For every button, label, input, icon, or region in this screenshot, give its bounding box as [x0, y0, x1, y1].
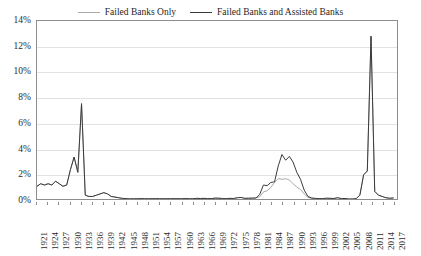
x-axis-tick [215, 202, 216, 205]
x-axis-tick-label: 1960 [186, 232, 195, 250]
x-axis-tick-label: 1924 [51, 232, 60, 250]
x-axis-tick [394, 202, 395, 205]
x-axis-tick-label: 1957 [174, 232, 183, 250]
x-axis-tick [36, 202, 37, 205]
x-axis-tick-label: 2002 [342, 232, 351, 250]
x-axis-tick [294, 202, 295, 205]
x-axis-tick-label: 1945 [130, 232, 139, 250]
x-axis-tick [103, 202, 104, 205]
plot-area [36, 20, 398, 200]
x-axis-tick [327, 202, 328, 205]
x-axis-tick-label: 1921 [40, 232, 49, 250]
x-axis-tick-label: 1942 [118, 232, 127, 250]
x-axis-tick [260, 202, 261, 205]
x-axis-tick [137, 202, 138, 205]
x-axis-tick-label: 1978 [253, 232, 262, 250]
x-axis-tick-label: 1930 [74, 232, 83, 250]
x-axis-tick [193, 202, 194, 205]
x-axis-tick-label: 1981 [264, 232, 273, 250]
chart-legend: Failed Banks Only Failed Banks and Assis… [0, 4, 421, 20]
data-series-line [37, 36, 393, 199]
x-axis-tick-label: 1927 [62, 232, 71, 250]
x-axis-tick-label: 1966 [208, 232, 217, 250]
y-axis-tick-label: 6% [0, 118, 31, 128]
x-axis-tick [92, 202, 93, 205]
y-axis: 0%2%4%6%8%10%12%14% [0, 0, 36, 220]
legend-swatch-icon [78, 12, 100, 13]
x-axis-tick [372, 202, 373, 205]
y-axis-tick-label: 4% [0, 144, 31, 154]
y-axis-tick-label: 8% [0, 92, 31, 102]
x-axis-tick-label: 1996 [320, 232, 329, 250]
legend-item-failed-and-assisted-banks: Failed Banks and Assisted Banks [190, 7, 343, 18]
x-axis-tick [338, 202, 339, 205]
x-axis-tick-label: 2008 [365, 232, 374, 250]
x-axis-tick [204, 202, 205, 205]
x-axis-tick-label: 1948 [141, 232, 150, 250]
series-lines [37, 21, 397, 199]
y-axis-tick-label: 14% [0, 15, 31, 25]
x-axis-tick [305, 202, 306, 205]
x-axis-tick [114, 202, 115, 205]
x-axis-tick [316, 202, 317, 205]
x-axis-tick-label: 1993 [309, 232, 318, 250]
x-axis-tick [126, 202, 127, 205]
x-axis-tick-label: 1954 [163, 232, 172, 250]
x-axis-tick-label: 1984 [275, 232, 284, 250]
x-axis-tick [349, 202, 350, 205]
x-axis-tick-label: 1963 [197, 232, 206, 250]
y-axis-tick-label: 2% [0, 169, 31, 179]
x-axis-tick [182, 202, 183, 205]
x-axis-tick [271, 202, 272, 205]
legend-swatch-icon [190, 12, 212, 13]
legend-item-failed-banks-only: Failed Banks Only [78, 7, 176, 18]
x-axis-tick-label: 2014 [387, 232, 396, 250]
x-axis-tick [282, 202, 283, 205]
x-axis-tick-label: 1933 [85, 232, 94, 250]
legend-label: Failed Banks Only [105, 7, 176, 18]
y-axis-tick-label: 0% [0, 195, 31, 205]
x-axis-tick-label: 1987 [286, 232, 295, 250]
x-axis-tick-label: 1936 [96, 232, 105, 250]
x-axis-tick [70, 202, 71, 205]
data-series-line [37, 36, 393, 199]
legend-label: Failed Banks and Assisted Banks [217, 7, 343, 18]
x-axis-tick-label: 2011 [376, 232, 385, 250]
x-axis-tick [170, 202, 171, 205]
x-axis-tick-label: 1939 [107, 232, 116, 250]
x-axis-tick [383, 202, 384, 205]
x-axis-tick [238, 202, 239, 205]
x-axis-tick-label: 2017 [398, 232, 407, 250]
x-axis-tick [81, 202, 82, 205]
x-axis-tick [148, 202, 149, 205]
x-axis-tick-label: 1951 [152, 232, 161, 250]
x-axis-tick [226, 202, 227, 205]
x-axis: 1921192419271930193319361939194219451948… [36, 202, 398, 256]
y-axis-tick-label: 12% [0, 41, 31, 51]
x-axis-tick [159, 202, 160, 205]
x-axis-tick-label: 1999 [331, 232, 340, 250]
x-axis-tick-label: 2005 [353, 232, 362, 250]
x-axis-tick-label: 1990 [298, 232, 307, 250]
x-axis-tick [361, 202, 362, 205]
x-axis-tick-label: 1972 [230, 232, 239, 250]
y-axis-tick-label: 10% [0, 66, 31, 76]
x-axis-tick [58, 202, 59, 205]
x-axis-tick [249, 202, 250, 205]
chart-container: Failed Banks Only Failed Banks and Assis… [0, 0, 421, 256]
x-axis-tick-label: 1969 [219, 232, 228, 250]
x-axis-tick [47, 202, 48, 205]
x-axis-tick-label: 1975 [242, 232, 251, 250]
